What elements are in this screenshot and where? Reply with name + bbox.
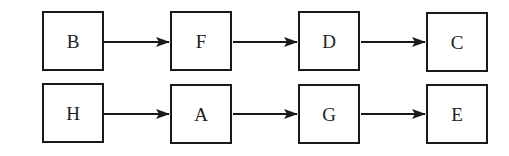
node-a: A bbox=[170, 84, 232, 144]
node-label: A bbox=[194, 105, 208, 124]
node-label: C bbox=[451, 33, 464, 52]
node-f: F bbox=[170, 11, 232, 71]
node-e: E bbox=[426, 84, 488, 144]
flow-diagram: B F D C H A G E bbox=[0, 0, 509, 156]
node-label: B bbox=[67, 32, 80, 51]
node-h: H bbox=[42, 83, 104, 143]
node-d: D bbox=[298, 11, 360, 71]
node-label: G bbox=[322, 105, 336, 124]
node-b: B bbox=[42, 11, 104, 71]
node-g: G bbox=[298, 84, 360, 144]
node-label: E bbox=[451, 105, 463, 124]
node-label: D bbox=[322, 32, 336, 51]
node-label: H bbox=[66, 104, 80, 123]
node-c: C bbox=[426, 12, 488, 72]
node-label: F bbox=[196, 32, 207, 51]
